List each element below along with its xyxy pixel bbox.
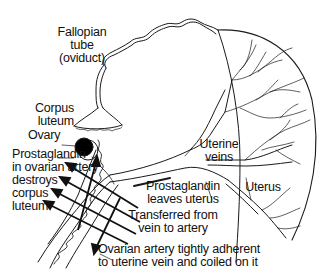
ovary-label: Ovary [28, 129, 60, 142]
uterine-vein-branches [225, 40, 310, 229]
corpus-luteum-leader [62, 145, 76, 146]
corpus-luteum-label: Corpus luteum [26, 102, 74, 128]
ovarian-artery-label: Ovarian artery tightly adherent to uteri… [98, 243, 260, 269]
uterine-veins-label: Uterine veins [194, 138, 244, 164]
uterus-label: Uterus [238, 181, 288, 194]
prostaglandin-artery-label: Prostaglandin in ovarian artery destroys… [12, 148, 98, 213]
fallopian-tube-label: Fallopian tube (oviduct) [52, 26, 112, 65]
uterus-wall [218, 30, 316, 240]
prostaglandin-leaves-label: Prostaglandin leaves uterus [142, 180, 224, 206]
transferred-label: Transferred from vein to artery [122, 209, 224, 235]
